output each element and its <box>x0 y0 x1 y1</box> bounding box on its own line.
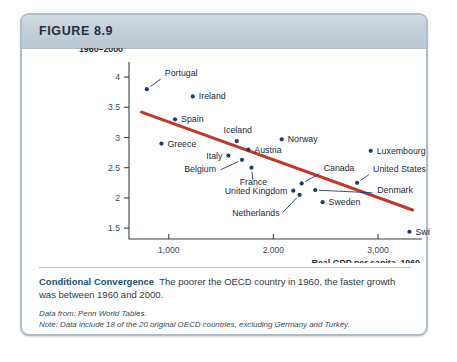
data-point <box>320 200 324 204</box>
scatter-chart: 1.522.533.541,0002,0003,000Growth rate (… <box>22 48 430 263</box>
caption-divider <box>39 267 411 268</box>
data-point <box>280 137 284 141</box>
data-point-label: Ireland <box>199 91 226 101</box>
x-axis-title: Real GDP per capita, 1960 <box>312 258 420 263</box>
data-point <box>291 189 295 193</box>
data-point <box>355 181 359 185</box>
y-axis-tick-label: 2 <box>115 193 120 203</box>
data-point <box>159 141 163 145</box>
data-point-label: Canada <box>324 163 355 173</box>
data-point <box>173 117 177 121</box>
data-point <box>313 188 317 192</box>
data-point <box>191 94 195 98</box>
point-leader-line <box>150 79 161 87</box>
caption-title: Conditional Convergence <box>39 276 154 287</box>
y-axis-tick-label: 2.5 <box>108 163 120 173</box>
data-point <box>246 147 250 151</box>
x-axis-tick-label: 1,000 <box>158 245 180 255</box>
x-axis-tick-label: 2,000 <box>263 245 285 255</box>
chart-plot-area: 1.522.533.541,0002,0003,000Growth rate (… <box>22 48 426 263</box>
figure-header-bar: FIGURE 8.9 <box>22 15 426 49</box>
data-point <box>235 139 239 143</box>
y-axis-title-line2: 1960–2000 <box>79 48 123 54</box>
data-point <box>369 149 373 153</box>
data-point <box>226 154 230 158</box>
y-axis-tick-label: 1.5 <box>108 223 120 233</box>
point-leader-line <box>221 162 239 170</box>
data-point <box>300 181 304 185</box>
data-point-label: Denmark <box>377 185 413 195</box>
data-point-label: United Kingdom <box>225 186 288 196</box>
source-note: Data from: Penn World Tables. <box>39 309 411 320</box>
data-point <box>145 87 149 91</box>
data-point <box>249 166 253 170</box>
data-point-label: United States <box>373 164 426 174</box>
data-point-label: Netherlands <box>232 208 280 218</box>
data-point <box>407 230 411 234</box>
data-point-label: Sweden <box>329 197 361 207</box>
point-leader-line <box>360 175 369 181</box>
data-point-label: Austria <box>254 145 281 155</box>
data-point-label: Spain <box>181 114 204 124</box>
figure-number-label: FIGURE 8.9 <box>39 24 113 38</box>
data-point-label: Luxembourg <box>377 146 426 156</box>
y-axis-tick-label: 4 <box>115 72 120 82</box>
data-point-label: Italy <box>206 151 223 161</box>
data-point-label: Belgium <box>184 164 216 174</box>
caption-text: Conditional Convergence The poorer the O… <box>39 275 411 301</box>
x-axis-tick-label: 3,000 <box>367 245 389 255</box>
data-point <box>240 158 244 162</box>
data-point <box>297 193 301 197</box>
data-point-label: Greece <box>167 139 196 149</box>
point-leader-line <box>283 198 297 212</box>
data-point-label: Iceland <box>224 125 252 135</box>
caption-zone: Conditional Convergence The poorer the O… <box>39 267 411 331</box>
y-axis-tick-label: 3.5 <box>108 102 120 112</box>
data-point-label: Norway <box>288 134 318 144</box>
data-point-label: Portugal <box>165 68 198 78</box>
figure-card: FIGURE 8.9 1.522.533.541,0002,0003,000Gr… <box>20 13 428 336</box>
caption-notes: Data from: Penn World Tables. Note: Data… <box>39 309 411 330</box>
data-note: Note: Data include 18 of the 20 original… <box>39 320 411 331</box>
data-point-label: Switzerland <box>415 227 430 237</box>
y-axis-tick-label: 3 <box>115 133 120 143</box>
